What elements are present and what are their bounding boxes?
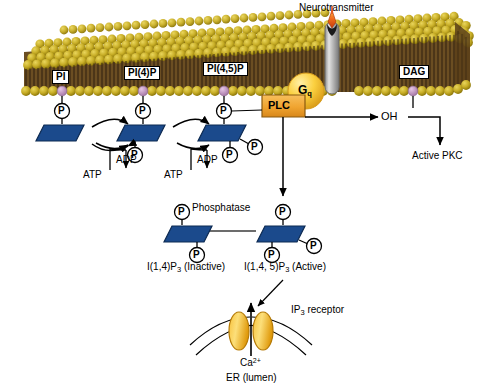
ip3-inactive-main: I(1,4)P xyxy=(147,261,177,272)
gq-label-subscript: q xyxy=(307,89,312,98)
pi45p-label: PI(4,5)P xyxy=(203,62,248,76)
adp-label-2: ADP xyxy=(197,155,218,165)
dag-label: DAG xyxy=(399,65,429,79)
calcium-label-main: Ca xyxy=(240,357,253,368)
atp-label-2: ATP xyxy=(164,170,183,180)
molecule-pi xyxy=(36,96,84,141)
oh-label: OH xyxy=(381,111,398,122)
pathway-illustration xyxy=(0,0,490,390)
ip3-receptor-rest: receptor xyxy=(305,304,344,315)
neurotransmitter-receptor[interactable] xyxy=(325,22,339,94)
calcium-label: Ca2+ xyxy=(240,357,261,368)
phosphatase-label: Phosphatase xyxy=(192,203,250,213)
ip3-active-main: I(1,4, 5)P xyxy=(244,261,285,272)
pi4p-label: PI(4)P xyxy=(124,66,160,80)
phosphate-glyph: P xyxy=(58,106,65,116)
phosphate-glyph: P xyxy=(279,207,286,217)
calcium-label-superscript: 2+ xyxy=(253,357,261,364)
phosphate-glyph: P xyxy=(226,150,233,160)
diagram-canvas: Neurotransmitter PI PI(4)P PI(4,5)P DAG … xyxy=(0,0,490,390)
ip3-receptor-label: IP3 receptor xyxy=(291,305,344,317)
phosphate-glyph: P xyxy=(220,106,227,116)
phosphate-glyph: P xyxy=(193,250,200,260)
neurotransmitter-label: Neurotransmitter xyxy=(299,3,373,13)
phosphate-glyph: P xyxy=(131,150,138,160)
phosphate-glyph: P xyxy=(310,241,317,251)
atp-label-1: ATP xyxy=(83,170,102,180)
ip3-inactive-state: (Inactive) xyxy=(181,261,225,272)
phosphate-glyph: P xyxy=(268,250,275,260)
molecule-ip3-inactive xyxy=(164,205,212,263)
phosphate-glyph: P xyxy=(251,142,258,152)
ip3-receptor-pointer xyxy=(258,280,283,306)
ip3-active-label: I(1,4, 5)P3 (Active) xyxy=(244,262,326,274)
pkc-activation-arrow xyxy=(408,117,440,145)
gq-label: Gq xyxy=(298,84,312,98)
phosphate-glyph: P xyxy=(178,207,185,217)
er-lumen-label: ER (lumen) xyxy=(226,373,277,383)
molecule-ip3-active xyxy=(257,205,322,263)
gq-label-main: G xyxy=(298,83,307,97)
active-pkc-label: Active PKC xyxy=(412,151,463,161)
ip3-active-state: (Active) xyxy=(289,261,326,272)
pi-label: PI xyxy=(52,70,69,84)
phosphate-glyph: P xyxy=(139,106,146,116)
ip3-inactive-label: I(1,4)P3 (Inactive) xyxy=(147,262,225,274)
plasma-membrane xyxy=(21,8,474,96)
plc-label: PLC xyxy=(268,100,290,111)
